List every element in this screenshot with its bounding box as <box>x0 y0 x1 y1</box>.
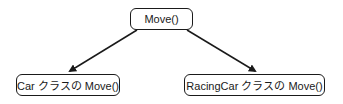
node-car-move: Car クラスの Move() <box>16 74 120 96</box>
edge-root-to-car <box>70 30 137 71</box>
node-move: Move() <box>130 8 193 30</box>
node-car-move-label: Car クラスの Move() <box>17 77 119 93</box>
node-move-label: Move() <box>144 13 178 25</box>
node-racingcar-move: RacingCar クラスの Move() <box>184 74 325 96</box>
edge-root-to-racingcar <box>187 30 255 71</box>
node-racingcar-move-label: RacingCar クラスの Move() <box>186 77 322 93</box>
